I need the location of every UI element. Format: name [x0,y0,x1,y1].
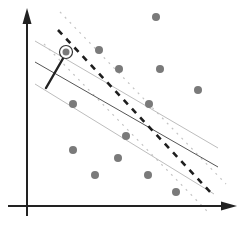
data-point [69,146,77,154]
data-point [91,171,99,179]
solid-middle-line [35,62,218,167]
x-axis-arrow-icon [221,202,237,211]
margin-dotted-upper-line [60,12,226,184]
data-point [145,100,153,108]
data-point [194,86,202,94]
data-point [156,65,164,73]
data-point [69,100,77,108]
lines-layer [35,12,226,212]
support-vector-point [63,49,70,56]
margin-distance-line [46,55,65,88]
data-point [95,46,103,54]
data-point [115,65,123,73]
data-point [152,13,160,21]
y-axis-arrow-icon [23,8,32,24]
data-point [144,171,152,179]
data-point [122,132,130,140]
data-point [114,154,122,162]
data-point [172,188,180,196]
points-layer [60,13,203,196]
svm-diagram [0,0,246,226]
